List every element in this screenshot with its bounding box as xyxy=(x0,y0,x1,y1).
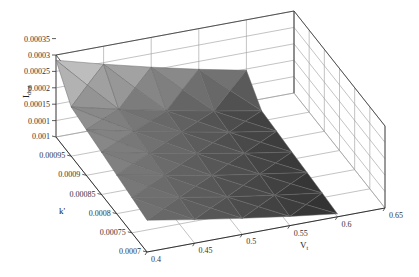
y-tick-label: 0.00095 xyxy=(39,151,65,160)
z-tick-label: 0.00035 xyxy=(24,35,50,44)
y-tick-label: 0.0007 xyxy=(119,247,141,256)
x-tick-label: 0.6 xyxy=(341,220,351,229)
z-axis-label: Idsat xyxy=(21,85,32,98)
x-tick-label: 0.4 xyxy=(151,255,161,264)
surface-mesh xyxy=(56,60,337,220)
x-tick xyxy=(145,252,147,255)
surface-chart: 0.40.450.50.550.60.650.00070.000750.0008… xyxy=(0,0,419,277)
z-tick-label: 0.0001 xyxy=(28,117,50,126)
x-axis-label: Vt xyxy=(300,240,309,251)
y-tick-label: 0.0009 xyxy=(58,170,80,179)
y-tick-label: 0.00085 xyxy=(70,190,96,199)
box-edge xyxy=(56,11,294,55)
y-tick-label: 0.0008 xyxy=(89,209,111,218)
y-axis-label: k' xyxy=(59,206,66,216)
x-tick-label: 0.45 xyxy=(199,246,213,255)
x-tick-label: 0.5 xyxy=(246,237,256,246)
y-tick-label: 0.001 xyxy=(32,132,50,141)
y-tick xyxy=(52,136,56,137)
z-tick-label: 0.00025 xyxy=(24,67,50,76)
z-tick-label: 0.0003 xyxy=(28,51,50,60)
x-tick-label: 0.55 xyxy=(294,229,308,238)
y-tick-label: 0.00075 xyxy=(100,228,126,237)
x-tick-label: 0.65 xyxy=(389,211,403,220)
z-tick-label: 0.00015 xyxy=(24,100,50,109)
